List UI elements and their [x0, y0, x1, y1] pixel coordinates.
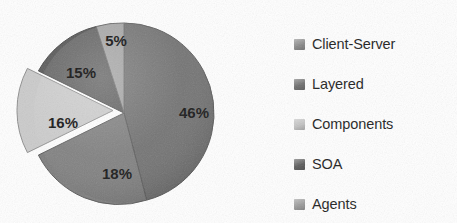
legend-swatch-icon-client-server — [294, 39, 305, 50]
legend-swatch-icon-layered — [294, 79, 305, 90]
pie-svg: 46% 18% 16% 15% 5% — [16, 2, 264, 222]
legend-label-layered: Layered — [312, 76, 364, 92]
pie-chart: 46% 18% 16% 15% 5% Client-Server Layered… — [0, 0, 457, 223]
pie-label-layered: 18% — [102, 165, 132, 182]
legend-label-agents: Agents — [312, 196, 357, 212]
legend-swatch-icon-components — [294, 119, 305, 130]
legend-label-soa: SOA — [312, 156, 342, 172]
legend-swatch-icon-agents — [294, 199, 305, 210]
pie-label-soa: 15% — [66, 64, 96, 81]
legend-item-client-server[interactable]: Client-Server — [294, 24, 457, 64]
legend-item-components[interactable]: Components — [294, 104, 457, 144]
legend: Client-Server Layered Components SOA Age… — [294, 24, 457, 223]
legend-label-components: Components — [312, 116, 393, 132]
pie-label-agents: 5% — [105, 32, 127, 49]
legend-swatch-icon-soa — [294, 159, 305, 170]
legend-item-layered[interactable]: Layered — [294, 64, 457, 104]
pie-label-components: 16% — [48, 114, 78, 131]
legend-label-client-server: Client-Server — [312, 36, 395, 52]
legend-item-agents[interactable]: Agents — [294, 184, 457, 223]
pie-label-client-server: 46% — [179, 104, 209, 121]
legend-item-soa[interactable]: SOA — [294, 144, 457, 184]
pie-plot-area: 46% 18% 16% 15% 5% — [16, 2, 264, 222]
